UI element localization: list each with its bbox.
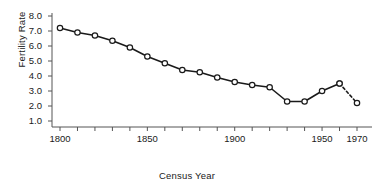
data-point bbox=[319, 88, 324, 93]
x-tick-label: 1970 bbox=[337, 133, 374, 144]
y-tick-label: 3.0 bbox=[16, 85, 42, 96]
fertility-rate-chart: Fertility Rate Census Year 1.02.03.04.05… bbox=[0, 0, 374, 194]
y-tick-label: 5.0 bbox=[16, 55, 42, 66]
x-tick-label: 1900 bbox=[215, 133, 255, 144]
data-point bbox=[180, 67, 185, 72]
data-point bbox=[302, 99, 307, 104]
axes bbox=[52, 13, 372, 127]
x-tick-label: 1850 bbox=[127, 133, 167, 144]
series-line bbox=[60, 28, 340, 102]
series-line bbox=[340, 84, 357, 104]
y-tick-label: 7.0 bbox=[16, 25, 42, 36]
x-tick-label: 1800 bbox=[40, 133, 80, 144]
y-tick-label: 6.0 bbox=[16, 40, 42, 51]
data-point bbox=[337, 81, 342, 86]
y-tick-label: 4.0 bbox=[16, 70, 42, 81]
data-point bbox=[57, 25, 62, 30]
data-point bbox=[215, 75, 220, 80]
data-point bbox=[162, 61, 167, 66]
data-point bbox=[267, 85, 272, 90]
data-point bbox=[145, 54, 150, 59]
y-tick-label: 1.0 bbox=[16, 115, 42, 126]
data-point bbox=[284, 99, 289, 104]
data-point bbox=[92, 33, 97, 38]
data-point bbox=[127, 45, 132, 50]
data-point bbox=[197, 70, 202, 75]
plot-area bbox=[0, 0, 374, 194]
y-tick-label: 8.0 bbox=[16, 10, 42, 21]
data-point bbox=[354, 100, 359, 105]
y-tick-label: 2.0 bbox=[16, 100, 42, 111]
data-point bbox=[110, 38, 115, 43]
data-point bbox=[249, 82, 254, 87]
data-lines bbox=[60, 28, 357, 103]
data-point bbox=[232, 79, 237, 84]
data-point bbox=[75, 30, 80, 35]
